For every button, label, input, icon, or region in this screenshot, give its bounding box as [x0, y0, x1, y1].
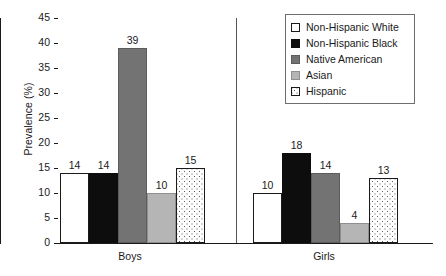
y-axis-tick-label: 5 — [44, 211, 50, 223]
x-axis-line — [58, 243, 433, 244]
legend-item[interactable]: Native American — [291, 51, 409, 67]
legend-swatch-non-hispanic-white-icon — [291, 23, 300, 32]
y-axis-tick: 15 — [0, 168, 58, 169]
legend-label: Native American — [306, 54, 382, 65]
y-axis-tick: 5 — [0, 218, 58, 219]
legend-label: Non-Hispanic White — [306, 22, 399, 33]
legend-swatch-native-american-icon — [291, 55, 300, 64]
y-axis-tick: 30 — [0, 93, 58, 94]
y-axis-tick-label: 35 — [38, 61, 50, 73]
y-axis-tick-label: 40 — [38, 36, 50, 48]
x-axis-group-label-boys: Boys — [90, 250, 170, 262]
y-axis-tick-label: 45 — [38, 11, 50, 23]
legend-item[interactable]: Hispanic — [291, 83, 409, 99]
bar-chart: Prevalence (%) 051015202530354045 BoysGi… — [0, 0, 446, 276]
bar-boys-non-hispanic-white[interactable] — [60, 173, 89, 243]
legend: Non-Hispanic White Non-Hispanic Black Na… — [285, 14, 415, 104]
y-axis-tick-label: 15 — [38, 161, 50, 173]
legend-item[interactable]: Non-Hispanic White — [291, 19, 409, 35]
y-axis-tick: 25 — [0, 118, 58, 119]
bar-value-label: 39 — [112, 34, 153, 46]
bar-girls-hispanic[interactable] — [369, 178, 398, 243]
bar-value-label: 18 — [276, 139, 317, 151]
legend-swatch-asian-icon — [291, 71, 300, 80]
bar-value-label: 15 — [170, 154, 211, 166]
bar-value-label: 14 — [305, 159, 346, 171]
bar-boys-native-american[interactable] — [118, 48, 147, 243]
bar-boys-non-hispanic-black[interactable] — [89, 173, 118, 243]
bar-girls-non-hispanic-white[interactable] — [253, 193, 282, 243]
legend-label: Hispanic — [306, 86, 346, 97]
legend-swatch-hispanic-icon — [291, 87, 300, 96]
legend-swatch-non-hispanic-black-icon — [291, 39, 300, 48]
x-axis-group-label-girls: Girls — [284, 250, 364, 262]
y-axis-tick: 20 — [0, 143, 58, 144]
bar-girls-asian[interactable] — [340, 223, 369, 243]
y-axis-tick: 40 — [0, 43, 58, 44]
bar-boys-asian[interactable] — [147, 193, 176, 243]
y-axis-tick: 35 — [0, 68, 58, 69]
y-axis-tick: 10 — [0, 193, 58, 194]
bar-girls-native-american[interactable] — [311, 173, 340, 243]
y-axis-tick-label: 10 — [38, 186, 50, 198]
y-axis-tick-label: 25 — [38, 111, 50, 123]
legend-label: Asian — [306, 70, 332, 81]
legend-item[interactable]: Non-Hispanic Black — [291, 35, 409, 51]
y-axis-tick-label: 0 — [44, 236, 50, 248]
y-axis-tick: 45 — [0, 18, 58, 19]
y-axis-tick-label: 30 — [38, 86, 50, 98]
legend-item[interactable]: Asian — [291, 67, 409, 83]
y-axis-tick: 0 — [0, 243, 58, 244]
bar-boys-hispanic[interactable] — [176, 168, 205, 243]
legend-label: Non-Hispanic Black — [306, 38, 398, 49]
bar-value-label: 13 — [363, 164, 404, 176]
y-axis-line — [0, 18, 1, 244]
y-axis-tick-label: 20 — [38, 136, 50, 148]
y-axis-title: Prevalence (%) — [22, 44, 34, 194]
